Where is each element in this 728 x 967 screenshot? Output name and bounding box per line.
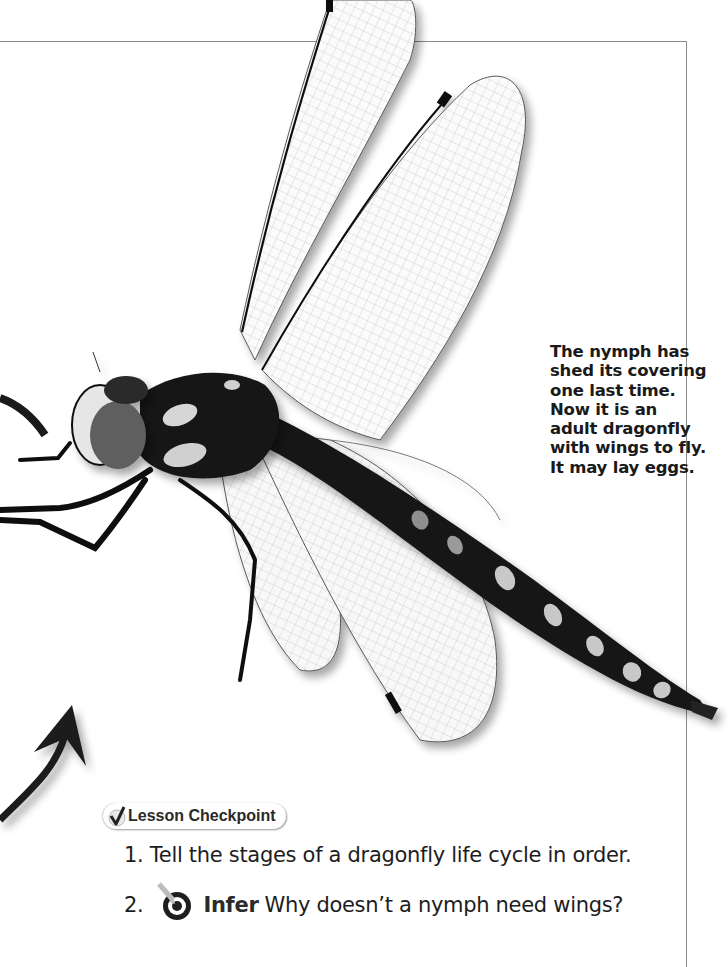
question-2: 2. Infer Why doesn’t a nymph need wings?	[124, 888, 623, 922]
head	[72, 352, 148, 469]
skill-keyword: Infer	[203, 893, 258, 917]
lesson-checkpoint-badge: Lesson Checkpoint	[103, 803, 286, 829]
caption-line: adult dragonfly	[550, 419, 728, 438]
arrow-stub-top	[0, 398, 45, 435]
checkpoint-title: Lesson Checkpoint	[128, 807, 276, 825]
caption-line: The nymph has	[550, 342, 728, 361]
caption-line: Now it is an	[550, 400, 728, 419]
caption-line: one last time.	[550, 381, 728, 400]
question-text: Why doesn’t a nymph need wings?	[264, 893, 623, 917]
question-1: 1. Tell the stages of a dragonfly life c…	[124, 843, 631, 867]
stage-caption: The nymph has shed its covering one last…	[550, 342, 728, 477]
checkmark-icon	[107, 805, 127, 827]
curved-arrow-up-icon	[0, 705, 86, 820]
caption-line: It may lay eggs.	[550, 458, 728, 477]
target-arrow-icon	[155, 882, 195, 922]
question-number: 2.	[124, 893, 143, 917]
thorax	[140, 373, 279, 479]
legs	[0, 443, 255, 680]
caption-line: with wings to fly.	[550, 438, 728, 457]
caption-line: shed its covering	[550, 361, 728, 380]
question-number: 1.	[124, 843, 143, 867]
question-text: Tell the stages of a dragonfly life cycl…	[150, 843, 632, 867]
